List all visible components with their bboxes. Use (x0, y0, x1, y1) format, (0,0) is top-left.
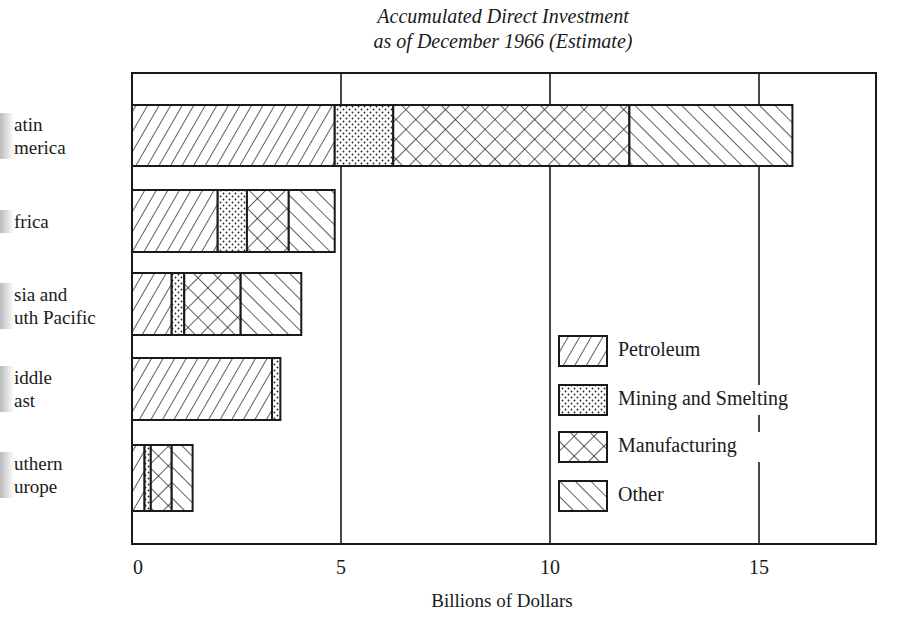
x-tick-label: 15 (749, 556, 769, 579)
bar-segment-manufacturing (247, 190, 289, 252)
legend-item-label: Mining and Smelting (618, 387, 788, 410)
x-tick-label: 5 (336, 556, 346, 579)
legend-item-label: Manufacturing (618, 434, 737, 457)
bar-segment-mining-and-smelting (335, 105, 394, 166)
bar-segment-other (629, 105, 792, 166)
category-label: iddleast (14, 366, 52, 412)
bar-segment-manufacturing (151, 445, 172, 511)
x-tick-label: 10 (540, 556, 560, 579)
category-label: uthernurope (14, 452, 63, 498)
bar-segment-other (172, 445, 193, 511)
bar-segment-other (289, 190, 335, 252)
legend-item-label: Other (618, 483, 664, 506)
chart-plot (0, 0, 900, 635)
category-label: atinmerica (14, 113, 66, 159)
legend-swatch (559, 336, 607, 366)
legend-swatch (559, 432, 607, 462)
bar-segment-mining-and-smelting (272, 358, 280, 420)
bar-segment-petroleum (132, 445, 145, 511)
bar-segment-mining-and-smelting (172, 273, 185, 335)
legend-swatch (559, 481, 607, 511)
category-label: frica (14, 210, 49, 233)
x-tick-label: 0 (133, 556, 143, 579)
bar-segment-manufacturing (184, 273, 240, 335)
bar-segment-petroleum (132, 105, 335, 166)
legend-item-label: Petroleum (618, 338, 700, 361)
category-label: sia anduth Pacific (14, 283, 96, 329)
bar-segment-petroleum (132, 273, 172, 335)
bar-segment-manufacturing (393, 105, 629, 166)
legend-swatches (559, 336, 825, 511)
x-axis-label: Billions of Dollars (431, 590, 572, 612)
bar-segment-petroleum (132, 190, 218, 252)
bar-segment-mining-and-smelting (218, 190, 247, 252)
bar-segment-other (241, 273, 302, 335)
legend-swatch (559, 385, 607, 415)
bar-segment-petroleum (132, 358, 272, 420)
